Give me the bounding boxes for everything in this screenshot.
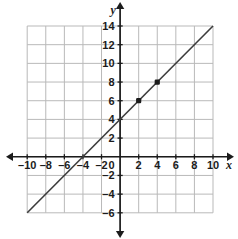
y-tick-label: –2 [102, 169, 114, 181]
y-tick-label: 10 [102, 57, 114, 69]
data-point-marker [155, 79, 160, 84]
y-tick-label: –6 [102, 207, 114, 219]
x-axis-label: x [225, 158, 232, 172]
y-tick-label: 12 [102, 39, 114, 51]
x-tick-label: 10 [207, 159, 219, 171]
x-tick-label: –10 [18, 159, 36, 171]
y-tick-label: 2 [108, 132, 114, 144]
x-tick-label: 8 [191, 159, 197, 171]
x-tick-label: 4 [154, 159, 161, 171]
x-tick-label: 6 [173, 159, 179, 171]
coordinate-plane-graph: –10–8–6–4–20246810 1412108642–2–4–6 x y [0, 0, 238, 239]
y-tick-label: 8 [108, 76, 114, 88]
x-tick-label: –4 [77, 159, 90, 171]
x-tick-label: 2 [136, 159, 142, 171]
y-tick-label: 4 [108, 113, 115, 125]
y-tick-label: –4 [102, 188, 115, 200]
x-tick-label: –8 [40, 159, 52, 171]
y-axis-label: y [108, 3, 116, 17]
data-point-marker [136, 98, 141, 103]
y-tick-label: 6 [108, 95, 114, 107]
graph-canvas: –10–8–6–4–20246810 1412108642–2–4–6 x y [0, 0, 238, 239]
x-tick-label: –6 [58, 159, 70, 171]
y-tick-label: 14 [102, 20, 115, 32]
